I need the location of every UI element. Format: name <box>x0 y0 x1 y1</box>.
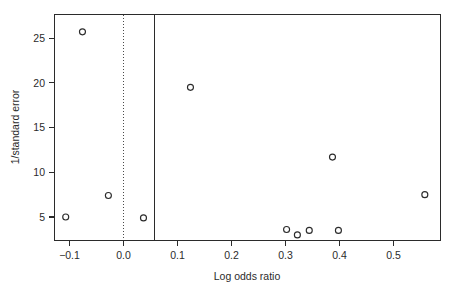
funnel-plot-figure: 25 20 15 10 5 1/standard error −0.1 0.0 … <box>0 0 459 291</box>
y-axis-title: 1/standard error <box>9 89 21 164</box>
y-tick-label-25: 25 <box>33 32 45 44</box>
x-tick-label-0.0: 0.0 <box>116 249 131 261</box>
x-tick-label-0.2: 0.2 <box>224 249 239 261</box>
y-tick-label-15: 15 <box>33 121 45 133</box>
x-tick-label-0.1: 0.1 <box>170 249 185 261</box>
x-tick-label-neg0.1: −0.1 <box>59 249 80 261</box>
y-tick-label-5: 5 <box>39 211 45 223</box>
x-tick-label-0.5: 0.5 <box>386 249 401 261</box>
x-axis-title: Log odds ratio <box>214 270 281 282</box>
x-tick-label-0.4: 0.4 <box>332 249 347 261</box>
y-tick-label-20: 20 <box>33 77 45 89</box>
figure-background <box>0 0 459 291</box>
funnel-plot-svg: 25 20 15 10 5 1/standard error −0.1 0.0 … <box>0 0 459 291</box>
x-tick-label-0.3: 0.3 <box>278 249 293 261</box>
y-tick-label-10: 10 <box>33 166 45 178</box>
